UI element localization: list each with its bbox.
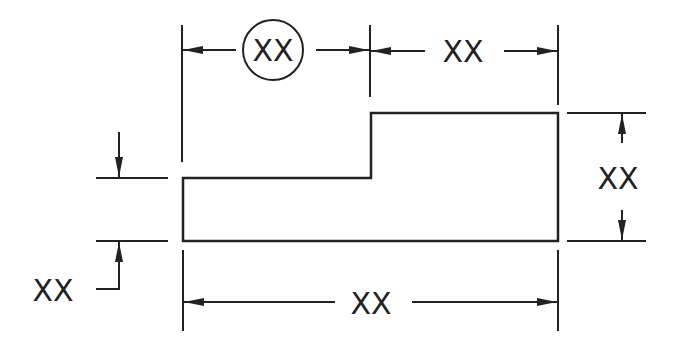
dim-label-top-right: XX: [442, 34, 483, 69]
dim-label-bottom: XX: [350, 286, 391, 321]
dim-label-left-step: XX: [32, 273, 73, 308]
dimensioned-drawing: XX XX XX XX XX: [0, 0, 675, 354]
part-outline: [183, 113, 558, 241]
dim-line-left-b: [96, 242, 119, 289]
dim-label-top-left: XX: [252, 33, 293, 68]
dim-label-right-height: XX: [597, 161, 638, 196]
